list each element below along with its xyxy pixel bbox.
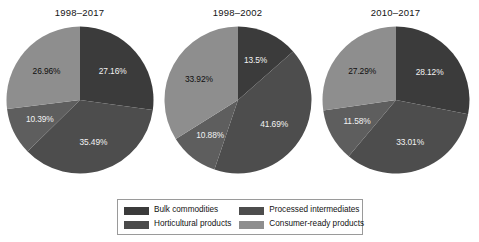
legend-swatch-icon: [124, 207, 149, 215]
slice-value-label: 27.29%: [348, 66, 376, 76]
legend-item-processed-intermediates: Processed intermediates: [239, 204, 364, 217]
legend-label: Consumer-ready products: [269, 220, 364, 228]
pie-slices: [6, 26, 154, 174]
legend-item-horticultural-products: Horticultural products: [124, 218, 231, 231]
panel-title: 1998–2017: [0, 7, 159, 18]
panel-title: 1998–2002: [158, 7, 317, 18]
pie-chart-2: 28.12%33.01%11.58%27.29%: [322, 26, 470, 174]
legend-grid: Bulk commodities Processed intermediates…: [124, 204, 356, 230]
legend-item-bulk-commodities: Bulk commodities: [124, 204, 231, 217]
slice-value-label: 10.88%: [196, 130, 224, 140]
slice-value-label: 28.12%: [416, 67, 444, 77]
panel-title: 2010–2017: [316, 7, 475, 18]
slice-value-label: 41.69%: [260, 119, 288, 129]
pie-panel-2: 2010–2017 28.12%33.01%11.58%27.29%: [316, 0, 475, 196]
slice-value-label: 26.96%: [33, 66, 61, 76]
pie-chart-0: 27.16%35.49%10.39%26.96%: [6, 26, 154, 174]
slice-value-label: 10.39%: [26, 114, 54, 124]
slice-value-label: 33.92%: [185, 74, 213, 84]
slice-value-label: 13.5%: [244, 55, 267, 65]
legend-label: Bulk commodities: [154, 206, 218, 214]
pie-slices: [164, 26, 312, 174]
slice-value-label: 27.16%: [99, 66, 127, 76]
pie-chart-1: 13.5%41.69%10.88%33.92%: [164, 26, 312, 174]
pie-slices: [322, 26, 470, 174]
pie-panel-0: 1998–2017 27.16%35.49%10.39%26.96%: [0, 0, 159, 196]
slice-value-label: 35.49%: [79, 137, 107, 147]
legend-swatch-icon: [124, 221, 149, 229]
legend-swatch-icon: [239, 221, 264, 229]
legend-label: Processed intermediates: [269, 206, 359, 214]
legend-label: Horticultural products: [154, 220, 231, 228]
chart-legend: Bulk commodities Processed intermediates…: [117, 199, 363, 235]
slice-value-label: 11.58%: [343, 116, 370, 126]
slice-value-label: 33.01%: [396, 137, 424, 147]
pie-panel-1: 1998–2002 13.5%41.69%10.88%33.92%: [158, 0, 317, 196]
legend-item-consumer-ready-products: Consumer-ready products: [239, 218, 364, 231]
legend-swatch-icon: [239, 207, 264, 215]
pie-chart-figure: 1998–2017 27.16%35.49%10.39%26.96% 1998–…: [0, 0, 479, 242]
